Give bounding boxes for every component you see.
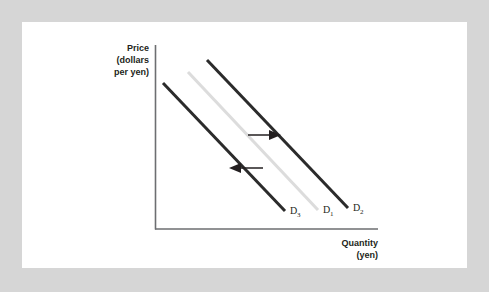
y-axis-label-line-2: (dollars [116,55,149,65]
demand-curve-d3 [163,83,285,211]
curve-label-d1-subscript: 1 [330,210,334,218]
x-axis-label-line-1: Quantity [341,238,378,248]
demand-curve-d1 [188,72,318,210]
figure-page: Price (dollars per yen) Quantity (yen) [0,0,489,292]
curve-label-d3: D 3 [290,205,301,219]
curve-label-d2-subscript: 2 [360,208,364,216]
figure-panel: Price (dollars per yen) Quantity (yen) [22,22,467,268]
decrease-arrow-head [229,163,241,173]
y-axis-label-line-3: per yen) [114,67,149,77]
x-axis-label-line-2: (yen) [356,250,378,260]
demand-shift-chart: Price (dollars per yen) Quantity (yen) [22,22,467,268]
curve-label-d3-subscript: 3 [297,211,301,219]
curve-label-d2: D 2 [353,202,364,216]
curve-label-d1: D 1 [323,204,334,218]
y-axis-label-line-1: Price [127,43,149,53]
